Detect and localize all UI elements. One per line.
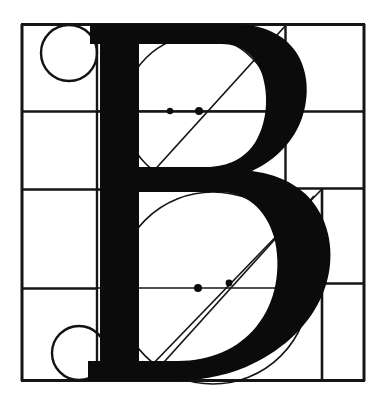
figure-background (0, 0, 389, 411)
type-construction-figure (0, 0, 389, 411)
upper-axis-node-center-dot (195, 107, 203, 115)
lower-axis-node-left-dot (194, 284, 202, 292)
upper-axis-node-left-dot (167, 108, 173, 114)
lower-axis-node-right-dot (226, 280, 233, 287)
letter-b-construction-diagram (0, 0, 389, 411)
